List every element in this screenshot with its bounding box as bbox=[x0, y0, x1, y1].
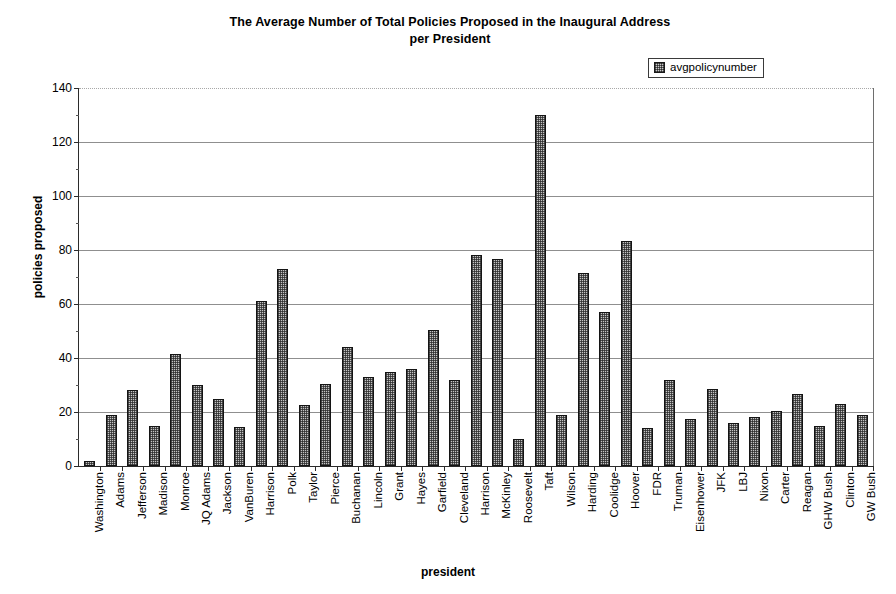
y-axis-tick-label: 100 bbox=[52, 189, 72, 203]
bar bbox=[707, 389, 718, 466]
x-axis-category-label: Jefferson bbox=[137, 472, 148, 519]
x-axis-tick-mark bbox=[573, 466, 574, 471]
bar bbox=[385, 372, 396, 467]
x-axis-tick-mark bbox=[637, 466, 638, 471]
x-axis-category-label: Jackson bbox=[222, 472, 233, 514]
bar bbox=[149, 426, 160, 467]
x-axis-tick-mark bbox=[658, 466, 659, 471]
x-axis-tick-mark bbox=[873, 466, 874, 471]
y-axis-tick-label: 140 bbox=[52, 81, 72, 95]
x-axis-category-label: Madison bbox=[158, 472, 169, 515]
x-axis-tick-mark bbox=[401, 466, 402, 471]
bar-chart: The Average Number of Total Policies Pro… bbox=[0, 0, 896, 594]
x-axis-tick-mark bbox=[272, 466, 273, 471]
x-axis-category-label: Hoover bbox=[630, 472, 641, 509]
x-axis-tick-mark bbox=[830, 466, 831, 471]
y-axis-title: policies proposed bbox=[31, 167, 45, 327]
bar bbox=[363, 377, 374, 466]
x-axis-tick-mark bbox=[186, 466, 187, 471]
bar bbox=[578, 273, 589, 466]
x-axis-tick-mark bbox=[379, 466, 380, 471]
x-axis-tick-mark bbox=[358, 466, 359, 471]
x-axis-category-labels: WashingtonAdamsJeffersonMadisonMonroeJQ … bbox=[78, 472, 872, 562]
x-axis-category-label: Coolidge bbox=[609, 472, 620, 517]
x-axis-tick-mark bbox=[530, 466, 531, 471]
bar bbox=[256, 301, 267, 466]
legend-entry-label: avgpolicynumber bbox=[670, 61, 757, 74]
x-axis-title: president bbox=[0, 565, 896, 579]
x-axis-category-label: Harrison bbox=[265, 472, 276, 515]
chart-title-line-1: The Average Number of Total Policies Pro… bbox=[230, 15, 671, 29]
bar bbox=[192, 385, 203, 466]
x-axis-category-label: Monroe bbox=[180, 472, 191, 511]
bar bbox=[749, 417, 760, 466]
bar bbox=[792, 394, 803, 466]
y-axis-tick-mark bbox=[74, 466, 79, 467]
bar bbox=[857, 415, 868, 466]
x-axis-category-label: Pierce bbox=[330, 472, 341, 505]
bar bbox=[556, 415, 567, 466]
bar bbox=[299, 405, 310, 466]
bar bbox=[342, 347, 353, 466]
x-axis-category-label: Polk bbox=[287, 472, 298, 494]
x-axis-category-label: GW Bush bbox=[866, 472, 877, 521]
x-axis-tick-mark bbox=[744, 466, 745, 471]
bar bbox=[835, 404, 846, 466]
bar bbox=[234, 427, 245, 466]
x-axis-tick-mark bbox=[100, 466, 101, 471]
x-axis-tick-mark bbox=[594, 466, 595, 471]
x-axis-tick-mark bbox=[701, 466, 702, 471]
x-axis-category-label: Harrison bbox=[480, 472, 491, 515]
x-axis-tick-mark bbox=[444, 466, 445, 471]
x-axis-tick-mark bbox=[422, 466, 423, 471]
bar bbox=[170, 354, 181, 466]
chart-legend: avgpolicynumber bbox=[648, 58, 764, 78]
bar bbox=[320, 384, 331, 466]
x-axis-tick-mark bbox=[229, 466, 230, 471]
x-axis-tick-mark bbox=[251, 466, 252, 471]
x-axis-tick-mark bbox=[787, 466, 788, 471]
bar bbox=[814, 426, 825, 467]
bars bbox=[79, 88, 873, 466]
x-axis-category-label: Harding bbox=[587, 472, 598, 512]
bar bbox=[428, 330, 439, 466]
x-axis-category-label: Buchanan bbox=[351, 472, 362, 524]
x-axis-category-label: LBJ bbox=[738, 472, 749, 492]
bar bbox=[599, 312, 610, 466]
x-axis-tick-mark bbox=[766, 466, 767, 471]
bar bbox=[728, 423, 739, 466]
x-axis-tick-mark bbox=[165, 466, 166, 471]
x-axis-tick-mark bbox=[337, 466, 338, 471]
y-axis-tick-label: 0 bbox=[65, 459, 72, 473]
bar bbox=[471, 255, 482, 466]
x-axis-tick-mark bbox=[723, 466, 724, 471]
x-axis-category-label: Hayes bbox=[416, 472, 427, 505]
x-axis-tick-mark bbox=[615, 466, 616, 471]
x-axis-category-label: Taft bbox=[544, 472, 555, 491]
x-axis-category-label: McKinley bbox=[501, 472, 512, 519]
y-axis-tick-label: 60 bbox=[59, 297, 72, 311]
x-axis-category-label: FDR bbox=[652, 472, 663, 496]
y-axis-tick-label: 80 bbox=[59, 243, 72, 257]
x-axis-tick-mark bbox=[551, 466, 552, 471]
bar bbox=[84, 461, 95, 466]
bar bbox=[513, 439, 524, 466]
x-axis-tick-mark bbox=[508, 466, 509, 471]
x-axis-category-label: Clinton bbox=[845, 472, 856, 508]
bar bbox=[127, 390, 138, 466]
bar bbox=[535, 115, 546, 466]
x-axis-tick-mark bbox=[680, 466, 681, 471]
plot-area: 020406080100120140 bbox=[78, 88, 874, 467]
x-axis-category-label: Lincoln bbox=[373, 472, 384, 508]
bar bbox=[492, 259, 503, 466]
bar bbox=[621, 241, 632, 466]
x-axis-category-label: JFK bbox=[716, 472, 727, 492]
chart-title-line-2: per President bbox=[120, 31, 780, 48]
x-axis-category-label: Nixon bbox=[759, 472, 770, 501]
bar bbox=[642, 428, 653, 466]
chart-title: The Average Number of Total Policies Pro… bbox=[120, 14, 780, 48]
x-axis-tick-mark bbox=[315, 466, 316, 471]
bar bbox=[685, 419, 696, 466]
x-axis-tick-mark bbox=[294, 466, 295, 471]
x-axis-category-label: Roosevelt bbox=[523, 472, 534, 523]
